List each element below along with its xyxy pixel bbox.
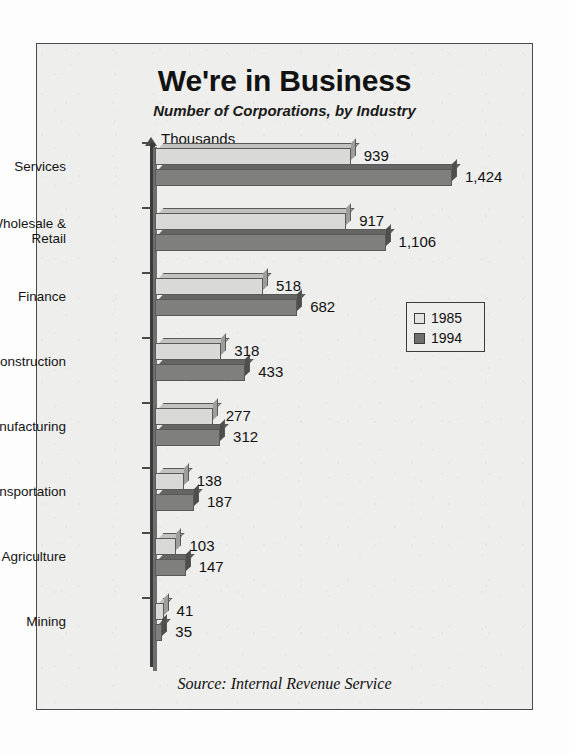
bar-1985-services	[155, 148, 351, 165]
axis-tick	[142, 272, 151, 274]
bar-side-facet	[176, 528, 181, 550]
bar-face	[155, 169, 452, 186]
bar-1994-finance	[155, 299, 297, 316]
chart-legend: 1985 1994	[406, 302, 485, 352]
bar-top-facet	[159, 273, 272, 278]
bar-face	[155, 278, 263, 295]
value-label-1994-construction: 433	[258, 363, 283, 380]
bar-face	[155, 408, 213, 425]
bar-side-facet	[386, 224, 391, 246]
bar-top-facet	[159, 533, 185, 538]
bar-top-facet	[159, 359, 254, 364]
axis-tick	[142, 207, 151, 209]
value-label-1994-finance: 682	[310, 298, 335, 315]
value-label-1985-transportation: 138	[197, 472, 222, 489]
value-label-1985-finance: 518	[276, 277, 301, 294]
bar-face	[155, 364, 245, 381]
category-label-wholesale-retail: Wholesale &Retail	[0, 216, 66, 246]
bar-top-facet	[159, 164, 460, 169]
bar-top-facet	[159, 229, 394, 234]
bar-top-facet	[159, 294, 306, 299]
bar-side-facet	[162, 614, 167, 636]
bar-face	[155, 343, 221, 360]
bar-side-facet	[452, 159, 457, 181]
value-label-1985-agriculture: 103	[189, 537, 214, 554]
value-label-1994-mining: 35	[175, 623, 192, 640]
axis-tick	[142, 467, 151, 469]
value-label-1985-construction: 318	[234, 342, 259, 359]
bar-side-facet	[184, 463, 189, 485]
bar-top-facet	[159, 403, 221, 408]
legend-label-1985: 1985	[431, 310, 462, 326]
bar-side-facet	[351, 138, 356, 160]
bar-1994-wholesale-retail	[155, 234, 386, 251]
bar-side-facet	[263, 268, 268, 290]
category-label-transportation: Transportation	[0, 484, 66, 499]
bar-side-facet	[220, 419, 225, 441]
bar-top-facet	[159, 208, 355, 213]
axis-tick	[142, 142, 151, 144]
category-label-services: Services	[0, 159, 66, 174]
bar-1985-wholesale-retail	[155, 213, 346, 230]
category-label-manufacturing: Manufacturing	[0, 419, 66, 434]
value-label-1985-wholesale-retail: 917	[359, 212, 384, 229]
value-label-1994-services: 1,424	[465, 168, 503, 185]
axis-tick	[142, 402, 151, 404]
category-label-finance: Finance	[0, 289, 66, 304]
bar-side-facet	[164, 593, 169, 615]
category-label-mining: Mining	[0, 614, 66, 629]
value-label-1994-manufacturing: 312	[233, 428, 258, 445]
bar-1985-agriculture	[155, 538, 176, 555]
value-label-1994-wholesale-retail: 1,106	[399, 233, 437, 250]
chart-frame: We're in Business Number of Corporations…	[36, 43, 533, 710]
bar-1985-construction	[155, 343, 221, 360]
bar-1985-transportation	[155, 473, 184, 490]
bar-face	[155, 473, 184, 490]
chart-subtitle: Number of Corporations, by Industry	[37, 102, 532, 119]
bar-face	[155, 559, 186, 576]
bar-side-facet	[346, 203, 351, 225]
value-label-1985-services: 939	[364, 147, 389, 164]
bar-face	[155, 234, 386, 251]
bar-top-facet	[159, 338, 230, 343]
bar-1994-mining	[155, 624, 162, 641]
chart-title: We're in Business	[37, 64, 532, 98]
bar-top-facet	[159, 143, 359, 148]
axis-tick	[142, 532, 151, 534]
legend-swatch-icon-1985	[414, 313, 425, 324]
category-label-agriculture: Agriculture	[0, 549, 66, 564]
bar-face	[155, 494, 194, 511]
bar-1994-transportation	[155, 494, 194, 511]
bar-1985-manufacturing	[155, 408, 213, 425]
legend-item-1985: 1985	[414, 308, 484, 328]
axis-tick	[142, 597, 151, 599]
bar-face	[155, 538, 176, 555]
value-label-1985-mining: 41	[177, 602, 194, 619]
axis-tick	[142, 337, 151, 339]
chart-source: Source: Internal Revenue Service	[37, 675, 532, 693]
bar-face	[155, 299, 297, 316]
bar-1994-agriculture	[155, 559, 186, 576]
legend-swatch-icon-1994	[414, 333, 425, 344]
legend-item-1994: 1994	[414, 328, 484, 348]
bar-1985-finance	[155, 278, 263, 295]
bar-face	[155, 213, 346, 230]
bar-face	[155, 148, 351, 165]
bar-top-facet	[159, 424, 229, 429]
bar-side-facet	[213, 398, 218, 420]
value-label-1994-transportation: 187	[207, 493, 232, 510]
value-label-1994-agriculture: 147	[199, 558, 224, 575]
bar-face	[155, 429, 220, 446]
value-label-1985-manufacturing: 277	[226, 407, 251, 424]
bar-1994-services	[155, 169, 452, 186]
category-label-construction: Construction	[0, 354, 66, 369]
bar-side-facet	[221, 333, 226, 355]
legend-label-1994: 1994	[431, 330, 462, 346]
bar-1994-construction	[155, 364, 245, 381]
bar-1994-manufacturing	[155, 429, 220, 446]
